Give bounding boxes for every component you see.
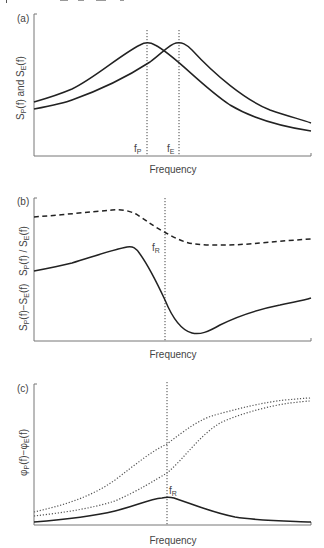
- panel-b-axes: [34, 198, 311, 341]
- fR-label-b: fR: [152, 242, 160, 254]
- difference-curve: [34, 247, 311, 334]
- panel-a-ylabel: SP(f) and SE(f): [15, 56, 27, 120]
- panel-c-xlabel: Frequency: [149, 535, 196, 546]
- phase-difference-curve: [34, 497, 311, 522]
- panel-b-xlabel: Frequency: [149, 349, 196, 360]
- panel-a-axes: [34, 14, 311, 156]
- panel-b-ylabel-difference: SP(f)−SE(f): [18, 284, 30, 331]
- fP-label: fP: [134, 143, 142, 155]
- SP-curve: [34, 43, 311, 131]
- panel-b-tag: (b): [17, 196, 29, 207]
- panel-b-ylabel-ratio: SP(f) / SE(f): [18, 226, 30, 276]
- panel-c-axes: [34, 384, 311, 525]
- figure: (a) SP(f) and SE(f) fP fE Frequency (b) …: [0, 0, 324, 548]
- panel-b: (b) SP(f) / SE(f) SP(f)−SE(f) fR Frequen…: [17, 196, 311, 360]
- panel-c: (c) φP(f)−φE(f) fR Frequency: [17, 382, 311, 546]
- fE-label: fE: [167, 143, 175, 155]
- ratio-curve: [34, 210, 311, 245]
- fR-label-c: fR: [169, 485, 177, 497]
- SE-curve: [34, 43, 311, 123]
- panel-c-tag: (c): [17, 383, 29, 394]
- panel-c-ylabel: φP(f)−φE(f): [18, 429, 30, 476]
- panel-a-xlabel: Frequency: [149, 164, 196, 175]
- phiE-curve: [34, 401, 311, 516]
- panel-a: (a) SP(f) and SE(f) fP fE Frequency: [15, 13, 311, 175]
- panel-a-tag: (a): [17, 13, 29, 24]
